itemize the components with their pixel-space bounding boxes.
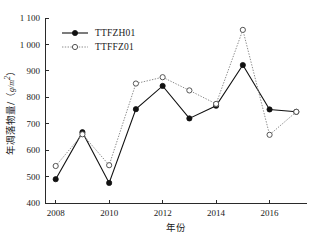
data-point-TTFZH01-2008: [53, 177, 58, 182]
y-axis-tick-label: 500: [27, 172, 41, 182]
line-chart: 4005006007008009001 0001 100 20082010201…: [0, 0, 316, 240]
series-line-TTFFZ01: [56, 30, 297, 166]
data-point-TTFZH01-2016: [267, 107, 272, 112]
data-point-TTFFZ01-2013: [187, 88, 192, 93]
legend-marker-TTFZH01: [72, 30, 77, 35]
y-axis-tick-label: 600: [27, 145, 41, 155]
data-series-group: [53, 27, 299, 185]
y-axis-tick-label: 700: [27, 119, 41, 129]
data-point-TTFZH01-2015: [240, 62, 245, 67]
x-axis-title: 年份: [166, 222, 186, 233]
data-point-TTFFZ01-2012: [160, 75, 165, 80]
data-point-TTFZH01-2011: [133, 107, 138, 112]
y-axis-title: 年凋落物量/（g/m2）: [3, 66, 17, 155]
x-axis-tick-label: 2014: [207, 208, 226, 218]
y-axis-tick-label: 800: [27, 92, 41, 102]
data-point-TTFFZ01-2016: [267, 132, 272, 137]
chart-figure: 4005006007008009001 0001 100 20082010201…: [0, 0, 316, 240]
x-axis-tick-label: 2016: [261, 208, 280, 218]
data-point-TTFZH01-2012: [160, 83, 165, 88]
y-axis-tick-label: 1 100: [20, 13, 41, 23]
data-point-TTFZH01-2013: [187, 116, 192, 121]
x-axis-tick-label: 2012: [154, 208, 172, 218]
data-point-TTFZH01-2010: [107, 180, 112, 185]
data-point-TTFFZ01-2015: [240, 27, 245, 32]
x-axis: 20082010201220142016: [45, 200, 307, 219]
data-point-TTFFZ01-2011: [133, 81, 138, 86]
series-line-TTFZH01: [56, 65, 297, 183]
chart-legend: TTFZH01TTFFZ01: [62, 28, 136, 52]
data-point-TTFFZ01-2010: [107, 163, 112, 168]
legend-label-TTFZH01: TTFZH01: [95, 28, 136, 38]
x-axis-tick-label: 2010: [100, 208, 119, 218]
data-point-TTFFZ01-2008: [53, 163, 58, 168]
x-axis-tick-label: 2008: [47, 208, 66, 218]
legend-marker-TTFFZ01: [72, 44, 77, 49]
y-axis-tick-label: 900: [27, 66, 41, 76]
y-axis: 4005006007008009001 0001 100: [20, 13, 49, 208]
y-axis-tick-label: 400: [27, 198, 41, 208]
legend-label-TTFFZ01: TTFFZ01: [95, 42, 134, 52]
data-point-TTFFZ01-2009: [80, 132, 85, 137]
y-axis-tick-label: 1 000: [20, 40, 41, 50]
data-point-TTFFZ01-2014: [214, 101, 219, 106]
data-point-TTFFZ01-2017: [294, 109, 299, 114]
